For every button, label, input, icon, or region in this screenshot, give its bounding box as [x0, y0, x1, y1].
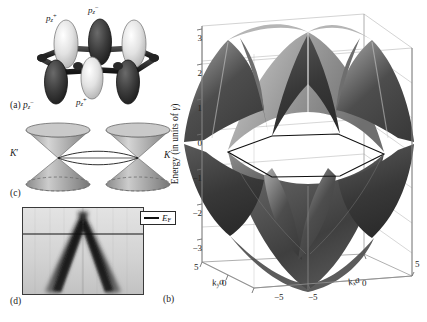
axis-title-energy: Energy (in units of γ) — [170, 74, 180, 214]
xtick-right-5: 5 — [415, 259, 420, 269]
orbital-lobe-down-dark-left — [45, 60, 68, 104]
label-pz-plus-top: pz+ — [46, 12, 57, 23]
figure-canvas: pz+ pz− pz+ (a) pz− — [0, 0, 427, 322]
lattice-node-midleft — [73, 62, 83, 70]
xtick-right-neg5: −5 — [308, 292, 318, 302]
dirac-cone-left — [26, 123, 90, 191]
panel-b-band-structure: Energy (in units of γ) 3 2 1 0 −1 −2 −3 — [168, 4, 427, 322]
lattice-node-midright — [113, 62, 123, 70]
arpes-svg — [23, 208, 143, 294]
panel-d-arpes-spectrum: EF — [22, 207, 142, 293]
lattice-node-left — [37, 54, 47, 62]
panel-b-caption: (b) — [163, 294, 174, 304]
ztick-1: 1 — [184, 103, 202, 113]
dirac-cone-svg — [12, 122, 180, 194]
fermi-connector — [58, 151, 138, 165]
orbital-lobe-down-light-mid — [81, 57, 103, 99]
ztick-2: 2 — [184, 68, 202, 78]
panel-c-dirac-cones: K′ K — [12, 122, 180, 194]
ztick-neg1: −1 — [180, 173, 202, 183]
xtick-left-5: 5 — [194, 262, 199, 272]
label-pz-minus-top: pz− — [88, 4, 99, 15]
band-structure-svg — [168, 4, 427, 322]
upper-pistar-band-surface — [184, 24, 414, 152]
ztick-3: 3 — [184, 33, 202, 43]
dirac-cone-right — [106, 123, 170, 191]
ztick-neg3: −3 — [180, 243, 202, 253]
panel-a-orbital-diagram: pz+ pz− pz+ — [22, 6, 174, 110]
xtick-right-0: 0 — [362, 278, 367, 288]
ztick-neg2: −2 — [180, 208, 202, 218]
panel-c-caption: (c) — [10, 188, 21, 198]
ztick-0: 0 — [184, 138, 202, 148]
lattice-node-right — [149, 54, 159, 62]
panel-d-caption: (d) — [10, 296, 21, 306]
panel-a-caption: (a) pz− — [10, 99, 34, 110]
label-k-prime: K′ — [10, 148, 18, 158]
label-pz-plus-bottom: pz+ — [76, 96, 87, 107]
legend-swatch-fermi-line — [144, 217, 159, 220]
axis-title-ky: kya — [211, 276, 224, 288]
arpes-image — [22, 207, 144, 295]
xtick-left-neg5: −5 — [274, 292, 284, 302]
orbital-svg — [22, 6, 174, 110]
